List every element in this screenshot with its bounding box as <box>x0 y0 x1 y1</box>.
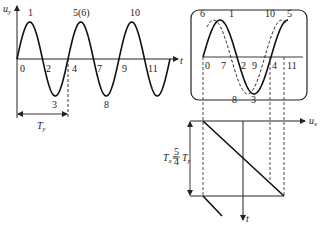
sweep-retrace <box>203 196 222 216</box>
point-label: 2 <box>241 60 246 71</box>
point-label: 0 <box>20 63 25 74</box>
point-label: 0 <box>205 60 210 71</box>
uy-axis-label: uy <box>3 3 12 16</box>
point-label: 10 <box>265 8 275 19</box>
ty-label: Ty <box>37 120 47 133</box>
point-label: 1 <box>229 8 234 19</box>
point-label: 11 <box>148 63 158 74</box>
point-label: 8 <box>232 94 237 105</box>
sweep-sawtooth-plot: ux t Tx= 5 4 Ty <box>163 115 318 224</box>
point-label: 7 <box>97 63 102 74</box>
point-label: 4 <box>72 63 77 74</box>
oscilloscope-screen: 01234567891011 <box>191 8 307 105</box>
point-label: 10 <box>130 7 140 18</box>
point-label: 4 <box>272 60 277 71</box>
point-label: 5(6) <box>73 7 90 19</box>
point-label: 1 <box>28 7 33 18</box>
point-label: 11 <box>287 60 297 71</box>
point-label: 9 <box>122 63 127 74</box>
tx-equation: Tx= 5 4 Ty <box>163 146 192 167</box>
svg-text:4: 4 <box>174 156 179 167</box>
point-label: 9 <box>252 60 257 71</box>
point-label: 7 <box>221 60 226 71</box>
screen-border <box>191 10 307 100</box>
t-axis-label-down: t <box>246 213 249 224</box>
point-label: 2 <box>46 63 51 74</box>
point-label: 6 <box>200 8 205 19</box>
point-label: 8 <box>104 99 109 110</box>
point-label: 3 <box>251 94 256 105</box>
point-label: 3 <box>52 99 57 110</box>
ux-axis-label: ux <box>309 115 318 128</box>
uy-waveform-plot: uy t Ty 012345(6)7891011 <box>3 3 183 133</box>
t-axis-label-left: t <box>180 55 183 66</box>
oscilloscope-diagram: uy t Ty 012345(6)7891011 01234567891011 … <box>0 0 326 233</box>
point-label: 5 <box>287 8 292 19</box>
